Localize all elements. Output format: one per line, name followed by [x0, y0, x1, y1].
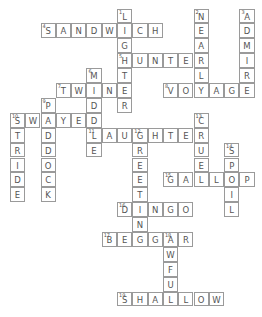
crossword-cell[interactable]: 2N	[194, 9, 209, 24]
crossword-cell[interactable]: O	[41, 158, 56, 173]
crossword-cell[interactable]: I	[86, 83, 101, 98]
crossword-cell[interactable]: I	[132, 202, 147, 217]
crossword-cell[interactable]: G	[132, 232, 147, 247]
crossword-cell[interactable]: U	[163, 277, 178, 292]
crossword-cell[interactable]: D	[10, 172, 25, 187]
crossword-cell[interactable]: W	[25, 113, 40, 128]
crossword-cell[interactable]: E	[178, 53, 193, 68]
crossword-cell[interactable]: 6M	[86, 68, 101, 83]
crossword-cell[interactable]: C	[132, 23, 147, 38]
crossword-cell[interactable]: 13C	[194, 113, 209, 128]
crossword-cell[interactable]: R	[178, 232, 193, 247]
crossword-cell[interactable]: G	[163, 202, 178, 217]
crossword-cell[interactable]: P	[224, 158, 239, 173]
crossword-cell[interactable]: A	[194, 38, 209, 53]
crossword-cell[interactable]: L	[194, 172, 209, 187]
crossword-cell[interactable]: L	[163, 292, 178, 307]
crossword-cell[interactable]: 4S	[41, 23, 56, 38]
crossword-cell[interactable]: E	[239, 83, 254, 98]
crossword-cell[interactable]: 12G	[132, 128, 147, 143]
crossword-cell[interactable]: D	[41, 128, 56, 143]
crossword-cell[interactable]: R	[10, 143, 25, 158]
crossword-cell[interactable]: U	[132, 53, 147, 68]
crossword-cell[interactable]: L	[209, 172, 224, 187]
crossword-cell[interactable]: K	[41, 187, 56, 202]
crossword-cell[interactable]: R	[239, 68, 254, 83]
crossword-cell[interactable]: L	[194, 68, 209, 83]
crossword-cell[interactable]: 1L	[117, 9, 132, 24]
crossword-cell[interactable]: W	[102, 23, 117, 38]
crossword-cell[interactable]: T	[132, 187, 147, 202]
crossword-cell[interactable]: T	[117, 68, 132, 83]
crossword-cell[interactable]: E	[10, 187, 25, 202]
crossword-cell[interactable]: A	[178, 172, 193, 187]
crossword-cell[interactable]: T	[10, 128, 25, 143]
crossword-cell[interactable]: R	[194, 128, 209, 143]
crossword-cell[interactable]: O	[178, 202, 193, 217]
crossword-cell[interactable]: A	[148, 292, 163, 307]
crossword-cell[interactable]: T	[163, 128, 178, 143]
crossword-cell[interactable]: H	[132, 292, 147, 307]
crossword-cell[interactable]: 11L	[86, 128, 101, 143]
crossword-cell[interactable]: N	[102, 83, 117, 98]
crossword-cell[interactable]: 17B	[102, 232, 117, 247]
crossword-cell[interactable]: 9P	[41, 98, 56, 113]
crossword-cell[interactable]: E	[132, 172, 147, 187]
crossword-cell[interactable]: 18A	[163, 232, 178, 247]
crossword-cell[interactable]: 19S	[117, 292, 132, 307]
crossword-cell[interactable]: E	[194, 23, 209, 38]
crossword-cell[interactable]: E	[71, 113, 86, 128]
crossword-cell[interactable]: F	[163, 262, 178, 277]
crossword-cell[interactable]: A	[41, 113, 56, 128]
crossword-cell[interactable]: M	[239, 38, 254, 53]
crossword-cell[interactable]: U	[117, 128, 132, 143]
crossword-cell[interactable]: I	[10, 158, 25, 173]
crossword-cell[interactable]: A	[209, 83, 224, 98]
crossword-cell[interactable]: W	[71, 83, 86, 98]
crossword-cell[interactable]: G	[117, 38, 132, 53]
crossword-cell[interactable]: A	[102, 128, 117, 143]
crossword-cell[interactable]: G	[224, 83, 239, 98]
crossword-cell[interactable]: Y	[56, 113, 71, 128]
crossword-cell[interactable]: D	[239, 23, 254, 38]
crossword-cell[interactable]: N	[71, 23, 86, 38]
crossword-cell[interactable]: N	[132, 217, 147, 232]
crossword-cell[interactable]: I	[117, 23, 132, 38]
crossword-cell[interactable]: P	[239, 172, 254, 187]
crossword-cell[interactable]: W	[163, 247, 178, 262]
crossword-cell[interactable]: E	[117, 83, 132, 98]
crossword-cell[interactable]: O	[178, 83, 193, 98]
crossword-cell[interactable]: T	[163, 53, 178, 68]
crossword-cell[interactable]: I	[224, 187, 239, 202]
crossword-cell[interactable]: N	[148, 202, 163, 217]
crossword-cell[interactable]: D	[41, 143, 56, 158]
crossword-cell[interactable]: D	[86, 23, 101, 38]
crossword-cell[interactable]: C	[41, 172, 56, 187]
crossword-cell[interactable]: 3A	[239, 9, 254, 24]
crossword-cell[interactable]: I	[239, 53, 254, 68]
crossword-cell[interactable]: D	[86, 113, 101, 128]
crossword-cell[interactable]: E	[132, 158, 147, 173]
crossword-cell[interactable]: W	[209, 292, 224, 307]
crossword-cell[interactable]: L	[178, 292, 193, 307]
crossword-cell[interactable]: R	[194, 53, 209, 68]
crossword-cell[interactable]: 10S	[10, 113, 25, 128]
crossword-cell[interactable]: H	[148, 128, 163, 143]
crossword-cell[interactable]: A	[56, 23, 71, 38]
crossword-cell[interactable]: 8V	[163, 83, 178, 98]
crossword-cell[interactable]: D	[86, 98, 101, 113]
crossword-cell[interactable]: E	[117, 232, 132, 247]
crossword-cell[interactable]: Y	[194, 83, 209, 98]
crossword-cell[interactable]: 7T	[56, 83, 71, 98]
crossword-cell[interactable]: 15G	[163, 172, 178, 187]
crossword-cell[interactable]: 14S	[224, 143, 239, 158]
crossword-cell[interactable]: N	[148, 53, 163, 68]
crossword-cell[interactable]: 16D	[117, 202, 132, 217]
crossword-cell[interactable]: R	[117, 98, 132, 113]
crossword-cell[interactable]: E	[178, 128, 193, 143]
crossword-cell[interactable]: H	[148, 23, 163, 38]
crossword-cell[interactable]: O	[224, 172, 239, 187]
crossword-cell[interactable]: E	[86, 143, 101, 158]
crossword-cell[interactable]: L	[224, 202, 239, 217]
crossword-cell[interactable]: U	[194, 143, 209, 158]
